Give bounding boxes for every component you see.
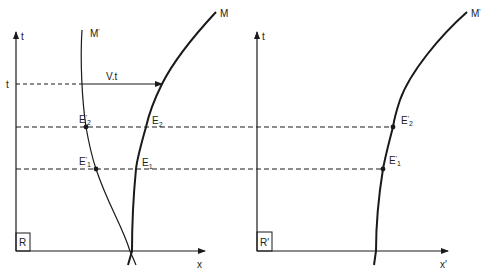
right-frame: t x' R' M' E'2 E'1: [257, 8, 481, 270]
velocity-label: V.t: [106, 71, 118, 82]
left-x-axis-label: x: [197, 259, 202, 270]
left-frame: t x R t V.t M' M E'2 E2 E'1 E1: [6, 8, 393, 270]
curve-Mprime-right-label: M': [471, 8, 481, 19]
worldline-Mprime-left: [81, 30, 136, 265]
event-E2prime-right-dot: [391, 125, 396, 130]
worldline-M-left: [128, 12, 216, 265]
event-E1prime-right-dot: [381, 167, 386, 172]
event-E2-label: E2: [152, 115, 163, 128]
right-t-axis-label: t: [262, 31, 265, 42]
curve-M-label: M: [220, 8, 228, 19]
left-t-axis-label: t: [21, 31, 24, 42]
event-E2prime-label: E'2: [79, 114, 91, 126]
event-E2prime-right-label: E'2: [401, 115, 413, 127]
t-tick-label: t: [6, 79, 9, 90]
event-E1prime-label: E'1: [79, 156, 91, 168]
event-E1prime-right-label: E'1: [389, 155, 401, 167]
curve-Mprime-label: M': [90, 28, 100, 39]
spacetime-diagram: t x R t V.t M' M E'2 E2 E'1 E1 t x': [0, 0, 490, 279]
right-x-axis-label: x': [440, 259, 447, 270]
frame-Rprime-label: R': [260, 237, 269, 248]
event-E1prime-dot: [94, 167, 99, 172]
event-E1-label: E1: [142, 157, 153, 170]
worldline-Mprime-right: [374, 12, 467, 265]
frame-R-label: R: [19, 237, 26, 248]
